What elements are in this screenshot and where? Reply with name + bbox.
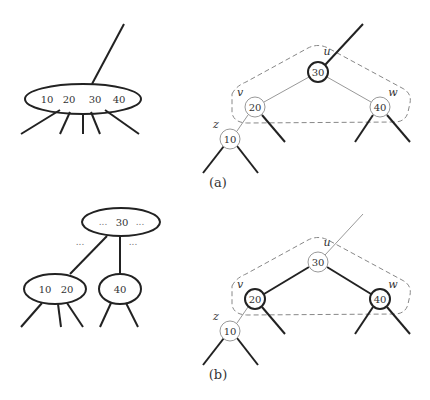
node-z-label: z xyxy=(212,118,219,131)
left-key-20: 20 xyxy=(61,284,74,295)
caption-a: (a) xyxy=(209,175,227,190)
node-z-key: 10 xyxy=(224,134,237,145)
right-key-40: 40 xyxy=(114,284,127,295)
node-z-label: z xyxy=(212,310,219,323)
node-w-key: 40 xyxy=(374,102,387,113)
key-30: 30 xyxy=(89,94,102,105)
key-40: 40 xyxy=(113,94,126,105)
node-w-label: w xyxy=(388,278,398,291)
parent-key-ellipsis-right: ... xyxy=(136,217,145,227)
btree-left-child xyxy=(24,274,86,304)
node-u-label: u xyxy=(323,45,330,58)
panel-b-rbtree: 30 u 20 v 40 w 10 z (b) xyxy=(203,214,410,382)
node-u-key: 30 xyxy=(312,67,325,78)
panel-a-rbtree: 30 u 20 v 40 w 10 z (a) xyxy=(203,24,410,190)
caption-b: (b) xyxy=(209,367,227,382)
node-v-label: v xyxy=(237,278,244,291)
left-key-10: 10 xyxy=(39,284,52,295)
node-z-key: 10 xyxy=(224,326,237,337)
panel-a-btree: 10 20 30 40 xyxy=(21,24,141,134)
node-u-label: u xyxy=(323,236,330,249)
parent-key-ellipsis-left: ... xyxy=(99,217,108,227)
node-u-key: 30 xyxy=(312,257,325,268)
parent-key-30: 30 xyxy=(116,217,129,228)
diagram-canvas: 10 20 30 40 30 u 20 v 40 w 10 z (a) xyxy=(0,0,430,400)
sibling-ellipsis-right: ... xyxy=(129,237,138,247)
node-v-key: 20 xyxy=(249,102,262,113)
key-20: 20 xyxy=(63,94,76,105)
panel-b-btree: ... 30 ... ... ... 10 20 40 xyxy=(21,208,160,327)
node-w-key: 40 xyxy=(374,294,387,305)
node-v-key: 20 xyxy=(249,294,262,305)
sibling-ellipsis-left: ... xyxy=(76,237,85,247)
node-w-label: w xyxy=(388,86,398,99)
node-v-label: v xyxy=(237,86,244,99)
key-10: 10 xyxy=(41,94,54,105)
